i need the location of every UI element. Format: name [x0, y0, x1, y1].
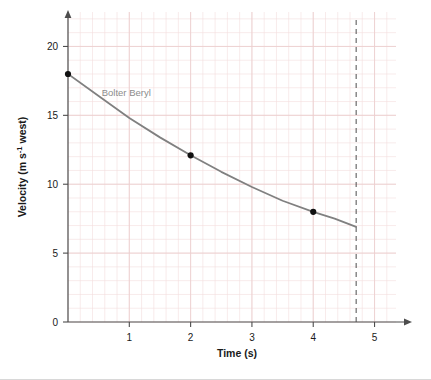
y-axis-title-tail: west)	[16, 117, 28, 147]
y-tick-label: 20	[47, 41, 59, 52]
x-tick-label: 1	[127, 332, 133, 343]
x-tick-label: 2	[188, 332, 194, 343]
x-axis-title: Time (s)	[217, 347, 257, 359]
y-tick-label: 10	[47, 179, 59, 190]
y-tick-label: 5	[52, 248, 58, 259]
y-tick-label: 0	[52, 317, 58, 328]
data-point	[65, 71, 71, 77]
x-tick-labels: 12345	[127, 332, 378, 343]
x-tick-label: 4	[310, 332, 316, 343]
series-label-bolter-beryl: Bolter Beryl	[102, 87, 151, 98]
chart-figure: 12345 05101520 Bolter Beryl Time (s) Vel…	[0, 0, 431, 380]
y-axis-title-main: Velocity (m s	[16, 153, 28, 217]
x-tick-label: 5	[372, 332, 378, 343]
velocity-time-chart: 12345 05101520 Bolter Beryl Time (s) Vel…	[0, 0, 431, 380]
x-tick-label: 3	[249, 332, 255, 343]
y-axis-title: Velocity (m s-1 west)	[15, 117, 28, 218]
data-point	[188, 152, 194, 158]
data-point	[310, 209, 316, 215]
y-tick-label: 15	[47, 110, 59, 121]
y-tick-labels: 05101520	[47, 41, 59, 328]
chart-plot-area: 12345 05101520 Bolter Beryl Time (s) Vel…	[0, 0, 431, 380]
x-axis-arrow	[404, 319, 412, 326]
svg-text:Velocity (m s-1 west): Velocity (m s-1 west)	[15, 117, 28, 218]
y-axis-title-exponent: -1	[15, 146, 24, 153]
